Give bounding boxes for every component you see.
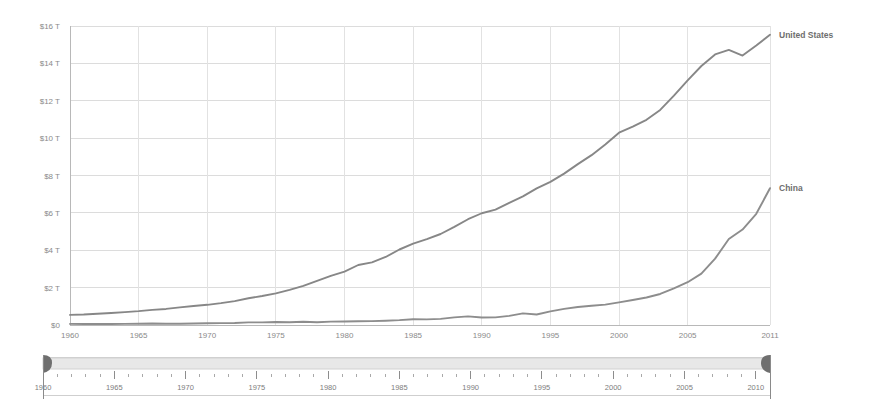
x-axis-tick-label: 1995: [541, 331, 559, 340]
series-line-china: [70, 188, 770, 324]
x-axis-tick-label: 1990: [473, 331, 491, 340]
slider-tick-label: 1995: [534, 383, 551, 392]
slider-selected-track[interactable]: [43, 358, 770, 369]
y-axis-tick-label: $8 T: [44, 172, 60, 181]
chart-plot-area: $16 T$14 T$12 T$10 T$8 T$6 T$4 T$2 T$019…: [0, 0, 885, 345]
x-axis-tick-label: 2011: [761, 331, 779, 340]
y-axis-tick-label: $16 T: [40, 22, 60, 31]
slider-tick-label: 1970: [177, 383, 194, 392]
y-axis-tick-label: $14 T: [40, 59, 60, 68]
slider-tick-label: 2000: [605, 383, 622, 392]
series-label-united-states: United States: [779, 30, 834, 40]
series-label-china: China: [779, 183, 803, 193]
x-axis-tick-label: 1960: [61, 331, 79, 340]
slider-tick-label: 1965: [106, 383, 123, 392]
slider-tick-label: 1985: [391, 383, 408, 392]
y-axis-tick-label: $6 T: [44, 209, 60, 218]
x-axis-tick-label: 1980: [336, 331, 354, 340]
chart-widget: $16 T$14 T$12 T$10 T$8 T$6 T$4 T$2 T$019…: [0, 0, 885, 406]
slider-tick-label: 2010: [747, 383, 764, 392]
x-axis-tick-label: 1975: [267, 331, 285, 340]
y-axis-tick-label: $10 T: [40, 134, 60, 143]
x-axis-tick-label: 2000: [610, 331, 628, 340]
x-axis-tick-label: 1970: [198, 331, 216, 340]
slider-tick-label: 1975: [248, 383, 265, 392]
slider-tick-label: 1990: [462, 383, 479, 392]
year-range-slider[interactable]: 1960196519701975198019851990199520002005…: [0, 345, 885, 406]
x-axis-tick-label: 2005: [679, 331, 697, 340]
year-range-slider-svg[interactable]: 1960196519701975198019851990199520002005…: [0, 345, 885, 406]
y-axis-tick-label: $4 T: [44, 246, 60, 255]
slider-tick-label: 1980: [320, 383, 337, 392]
x-axis-tick-label: 1985: [404, 331, 422, 340]
series-line-united-states: [70, 35, 770, 315]
x-axis-tick-label: 1965: [130, 331, 148, 340]
y-axis-tick-label: $12 T: [40, 97, 60, 106]
slider-tick-label: 2005: [676, 383, 693, 392]
y-axis-tick-label: $0: [51, 321, 60, 330]
y-axis-tick-label: $2 T: [44, 284, 60, 293]
line-chart-svg: $16 T$14 T$12 T$10 T$8 T$6 T$4 T$2 T$019…: [0, 0, 885, 345]
